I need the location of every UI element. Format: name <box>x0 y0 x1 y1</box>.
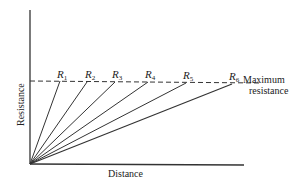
ray-r5 <box>30 83 186 164</box>
x-axis-label: Distance <box>108 168 144 179</box>
ray-label-r1: R1 <box>56 68 68 82</box>
ray-label-r5: R5 <box>182 69 194 83</box>
ray-r6 <box>30 84 232 164</box>
ray-label-r4: R4 <box>144 68 156 82</box>
ray-r1 <box>30 81 60 164</box>
ray-r4 <box>30 82 148 164</box>
max-resistance-label-1: Maximum <box>243 74 285 85</box>
ray-r2 <box>30 82 87 164</box>
y-axis-label: Resistance <box>15 83 26 126</box>
ray-label-r6: R6 <box>228 70 240 84</box>
resistance-distance-diagram: R1 R2 R3 R4 R5 R6 Maximum resistance Dis… <box>0 0 299 190</box>
ray-label-r2: R2 <box>84 68 96 82</box>
ray-r3 <box>30 82 115 164</box>
x-axis <box>30 164 244 165</box>
ray-label-r3: R3 <box>111 68 123 82</box>
max-resistance-label-2: resistance <box>249 85 289 96</box>
